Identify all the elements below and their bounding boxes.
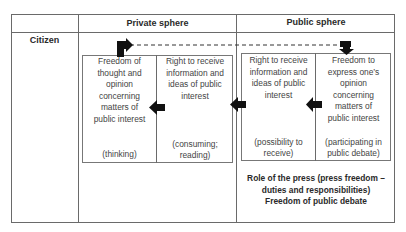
cell-private-right-to-receive: Right to receive information and ideas o… <box>157 56 233 102</box>
note-possibility-to-receive: (possibility to receive) <box>242 137 315 159</box>
note-thinking: (thinking) <box>83 149 156 160</box>
note-participating-public-debate: (participating in public debate) <box>316 137 391 159</box>
header-private-sphere: Private sphere <box>79 18 236 28</box>
cell-freedom-to-express: Freedom to express one’s opinion concern… <box>316 55 391 125</box>
note-consuming-reading: (consuming; reading) <box>157 139 233 161</box>
header-divider <box>11 32 395 33</box>
cell-freedom-of-thought: Freedom of thought and opinion concernin… <box>83 56 156 126</box>
column-divider-label <box>78 14 79 223</box>
row-label-citizen: Citizen <box>11 35 78 45</box>
cell-public-right-to-receive: Right to receive information and ideas o… <box>242 55 315 101</box>
header-public-sphere: Public sphere <box>237 17 395 27</box>
press-role-text: Role of the press (press freedom – dutie… <box>237 173 395 208</box>
